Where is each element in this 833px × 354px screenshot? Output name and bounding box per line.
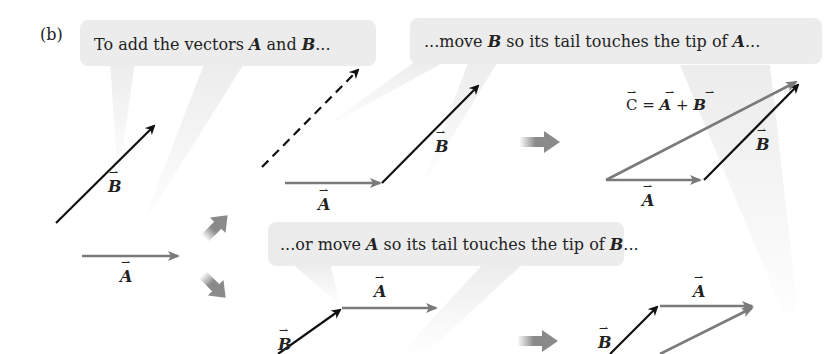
step-arrow-top [520,131,560,153]
svg-text:⇀: ⇀ [627,86,636,99]
svg-text:⇀: ⇀ [109,166,118,179]
svg-text:A: A [372,282,386,301]
svg-text:⇀: ⇀ [665,86,674,99]
svg-text:⇀: ⇀ [375,271,384,284]
step-move-b: A ⇀ B ⇀ [262,70,478,214]
callout-move-b: ...move B so its tail touches the tip of… [410,18,822,64]
panel-label: (b) [40,25,63,44]
svg-text:⇀: ⇀ [436,126,445,139]
callout-move-a: ...or move A so its tail touches the tip… [268,222,639,266]
svg-text:⇀: ⇀ [319,184,328,197]
vector-addition-diagram: (b) To add the vectors A and B... ...mov… [0,0,833,354]
svg-text:⇀: ⇀ [757,124,766,137]
step-arrow-bottom [518,330,558,352]
svg-text:⇀: ⇀ [279,324,288,337]
svg-text:⇀: ⇀ [121,256,130,269]
svg-text:⇀: ⇀ [599,322,608,335]
svg-text:A: A [640,191,654,210]
svg-text:A: A [316,195,330,214]
label-b: B [107,177,122,196]
callout-add-vectors: To add the vectors A and B... [80,20,376,66]
svg-text:B: B [434,137,449,156]
result-bottom: B ⇀ A ⇀ [597,271,752,354]
branch-arrows [195,208,235,306]
svg-text:A: A [691,282,705,301]
svg-text:B: B [597,333,612,352]
svg-text:B: B [755,135,770,154]
svg-text:...or move A so its tail touch: ...or move A so its tail touches the tip… [280,235,639,254]
vector-b-dashed [262,70,358,167]
svg-text:B: B [277,335,292,354]
svg-text:...move B so its tail touches: ...move B so its tail touches the tip of… [424,32,760,51]
svg-text:⇀: ⇀ [694,271,703,284]
svg-text:To add the vectors A and B...: To add the vectors A and B... [94,35,331,54]
svg-text:⇀: ⇀ [643,180,652,193]
svg-text:⇀: ⇀ [705,86,714,99]
label-a: A [118,267,132,286]
vector-b-original [56,126,154,223]
